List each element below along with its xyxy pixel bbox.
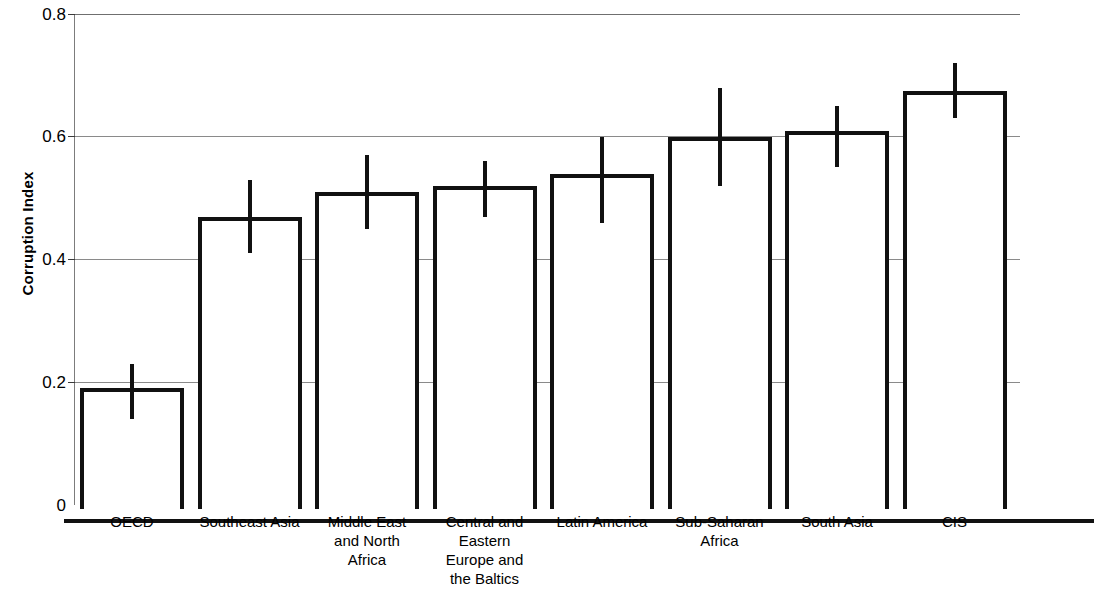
error-bar-line-7 [953,63,957,118]
bar-central-and-eastern-europe-and-the-baltics[interactable] [433,186,537,509]
bar-latin-america[interactable] [550,174,654,509]
error-bar-cap-top-0 [130,364,134,368]
error-bar-cap-top-2 [365,155,369,159]
y-tickmark-0.6 [68,136,75,137]
x-tick-label-6-line-0: South Asia [778,512,896,531]
y-axis-tick-labels: 0.8 0.6 0.4 0.2 0 [6,0,66,599]
error-bar-line-2 [365,155,369,229]
y-tick-label-0.2: 0.2 [20,374,66,391]
error-bar-line-3 [483,161,487,216]
gridline-0.8 [74,14,1020,15]
y-tickmark-0.8 [68,14,75,15]
plot-area [74,14,1020,505]
y-tick-label-0.6: 0.6 [20,128,66,145]
x-tick-label-3-line-0: Central and [426,512,544,531]
error-bar-line-0 [130,364,134,419]
y-tick-label-0: 0 [20,497,66,514]
x-tick-label-3-line-2: Europe and [426,550,544,569]
x-tick-label-4: Latin America [543,512,661,531]
error-bar-line-6 [835,106,839,167]
x-tick-label-2-line-0: Middle East [308,512,426,531]
x-tick-label-4-line-0: Latin America [543,512,661,531]
bar-southeast-asia[interactable] [198,217,302,509]
y-tick-label-0.8: 0.8 [20,6,66,23]
error-bar-line-1 [248,180,252,254]
bar-cis[interactable] [903,91,1007,509]
x-tick-label-3: Central andEasternEurope andthe Baltics [426,512,544,588]
error-bar-line-5 [718,88,722,186]
x-tick-label-7: CIS [896,512,1014,531]
x-tick-label-2-line-1: and North [308,531,426,550]
bar-sub-saharan-africa[interactable] [668,137,772,509]
error-bar-line-4 [600,137,604,223]
x-tick-label-0-line-0: OECD [73,512,191,531]
bar-middle-east-and-north-africa[interactable] [315,192,419,509]
x-tick-label-7-line-0: CIS [896,512,1014,531]
bar-south-asia[interactable] [785,131,889,509]
x-tick-label-1-line-0: Southeast Asia [191,512,309,531]
x-tick-label-3-line-1: Eastern [426,531,544,550]
x-tick-label-2: Middle Eastand NorthAfrica [308,512,426,569]
error-bar-cap-top-7 [953,63,957,67]
x-tick-label-1: Southeast Asia [191,512,309,531]
error-bar-cap-top-4 [600,137,604,141]
x-axis-tick-labels: OECDSoutheast AsiaMiddle Eastand NorthAf… [74,512,1020,599]
x-tick-label-2-line-2: Africa [308,550,426,569]
error-bar-cap-top-3 [483,161,487,165]
x-tick-label-3-line-3: the Baltics [426,569,544,588]
y-tickmark-0.2 [68,382,75,383]
x-tick-label-5-line-1: Africa [661,531,779,550]
error-bar-cap-top-5 [718,88,722,92]
y-tick-label-0.4: 0.4 [20,251,66,268]
x-tick-label-6: South Asia [778,512,896,531]
y-tickmark-0.4 [68,259,75,260]
error-bar-cap-top-6 [835,106,839,110]
x-tick-label-0: OECD [73,512,191,531]
x-tick-label-5: Sub-SaharanAfrica [661,512,779,550]
x-tick-label-5-line-0: Sub-Saharan [661,512,779,531]
error-bar-cap-top-1 [248,180,252,184]
